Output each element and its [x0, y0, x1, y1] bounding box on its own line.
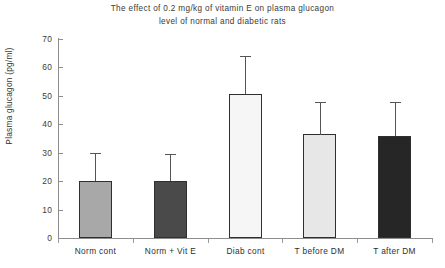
chart-title-line-1: The effect of 0.2 mg/kg of vitamin E on … — [0, 3, 445, 16]
error-bar-cap — [165, 154, 176, 155]
x-axis-line — [58, 238, 433, 239]
x-axis-tick — [133, 239, 134, 243]
y-axis-tick-label: 30 — [26, 148, 52, 158]
error-bar-stem — [170, 154, 171, 181]
x-axis-category-label: Norm cont — [58, 246, 133, 256]
x-axis-category-label: T after DM — [357, 246, 432, 256]
error-bar-stem — [245, 56, 246, 94]
chart-title: The effect of 0.2 mg/kg of vitamin E on … — [0, 3, 445, 28]
error-bar-cap — [390, 102, 401, 103]
bar-diab-cont — [229, 94, 262, 238]
x-axis-tick — [282, 239, 283, 243]
y-axis-tick-label: 70 — [26, 34, 52, 44]
y-axis-tick-label: 40 — [26, 119, 52, 129]
y-axis-tick-label: 60 — [26, 62, 52, 72]
x-axis-category-label: Diab cont — [208, 246, 283, 256]
error-bar-cap — [90, 153, 101, 154]
error-bar-stem — [395, 102, 396, 136]
error-bar-stem — [95, 153, 96, 181]
error-bar-stem — [320, 102, 321, 135]
x-axis-category-label: T before DM — [282, 246, 357, 256]
plot-area — [58, 39, 432, 238]
y-axis-tick-label: 10 — [26, 205, 52, 215]
bar-t-after-dm — [378, 136, 411, 238]
bar-t-before-dm — [303, 134, 336, 238]
y-axis-tick-label: 0 — [26, 233, 52, 243]
x-axis-tick — [58, 239, 59, 243]
y-axis-title: Plasma glucagon (pg/ml) — [4, 36, 14, 156]
y-axis-tick-label: 20 — [26, 176, 52, 186]
y-axis-tick-label: 50 — [26, 91, 52, 101]
error-bar-cap — [240, 56, 251, 57]
x-axis-category-label: Norm + Vit E — [133, 246, 208, 256]
bar-norm-vit-e — [154, 181, 187, 238]
x-axis-tick — [357, 239, 358, 243]
error-bar-cap — [315, 102, 326, 103]
bar-norm-cont — [79, 181, 112, 238]
chart-title-line-2: level of normal and diabetic rats — [0, 16, 445, 29]
chart-figure: The effect of 0.2 mg/kg of vitamin E on … — [0, 0, 445, 268]
x-axis-tick — [432, 239, 433, 243]
x-axis-tick — [208, 239, 209, 243]
